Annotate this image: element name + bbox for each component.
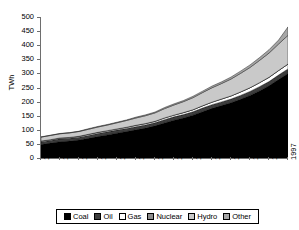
stacked-area-chart: TWh 500450400350300250200150100500 19711…: [0, 0, 299, 230]
x-tick-mark: [287, 157, 288, 160]
x-tick-label: 1993: [252, 143, 260, 160]
x-tick-label: 1991: [233, 143, 241, 160]
y-tick-label: 200: [10, 98, 34, 105]
legend-item-nuclear[interactable]: Nuclear: [147, 212, 182, 221]
x-tick-label: 1989: [214, 143, 222, 160]
x-tick-label: 1971: [43, 143, 51, 160]
x-tick-mark: [230, 157, 231, 160]
x-tick-mark: [78, 157, 79, 160]
x-tick-mark: [116, 157, 117, 160]
y-tick-label: 150: [10, 112, 34, 119]
chart-legend: CoalOilGasNuclearHydroOther: [56, 209, 259, 224]
y-tick-label: 450: [10, 27, 34, 34]
x-tick-mark: [173, 157, 174, 160]
legend-item-oil[interactable]: Oil: [94, 212, 112, 221]
legend-label: Gas: [128, 212, 142, 221]
legend-swatch-icon: [223, 213, 230, 220]
legend-label: Coal: [73, 212, 88, 221]
x-tick-label: 1981: [138, 143, 146, 160]
x-axis-tick-labels: 1971197319751977197919811983198519871989…: [40, 160, 287, 205]
legend-swatch-icon: [119, 213, 126, 220]
x-tick-mark: [40, 157, 41, 160]
legend-swatch-icon: [64, 213, 71, 220]
y-tick-label: 250: [10, 84, 34, 91]
x-tick-label: 1983: [157, 143, 165, 160]
x-tick-label: 1995: [271, 143, 279, 160]
y-tick-label: 50: [10, 140, 34, 147]
legend-swatch-icon: [188, 213, 195, 220]
x-tick-mark: [59, 157, 60, 160]
y-tick-label: 500: [10, 13, 34, 20]
x-tick-label: 1973: [62, 143, 70, 160]
area-series-group: [41, 17, 288, 158]
y-tick-label: 300: [10, 69, 34, 76]
y-axis-tick-labels: 500450400350300250200150100500: [8, 0, 34, 230]
x-tick-label: 1985: [176, 143, 184, 160]
legend-swatch-icon: [94, 213, 101, 220]
plot-area: [40, 17, 288, 159]
x-tick-mark: [192, 157, 193, 160]
legend-item-coal[interactable]: Coal: [64, 212, 88, 221]
legend-swatch-icon: [147, 213, 154, 220]
y-tick-label: 0: [10, 154, 34, 161]
x-tick-label: 1975: [81, 143, 89, 160]
legend-label: Other: [232, 212, 251, 221]
y-tick-label: 400: [10, 41, 34, 48]
x-tick-mark: [97, 157, 98, 160]
x-tick-label: 1987: [195, 143, 203, 160]
x-tick-mark: [249, 157, 250, 160]
legend-item-other[interactable]: Other: [223, 212, 251, 221]
legend-item-gas[interactable]: Gas: [119, 212, 142, 221]
y-tick-label: 100: [10, 126, 34, 133]
x-tick-mark: [154, 157, 155, 160]
legend-label: Nuclear: [156, 212, 182, 221]
x-tick-mark: [268, 157, 269, 160]
legend-label: Hydro: [197, 212, 217, 221]
x-tick-label: 1997: [290, 143, 298, 160]
legend-label: Oil: [103, 212, 112, 221]
x-tick-label: 1977: [100, 143, 108, 160]
x-tick-mark: [135, 157, 136, 160]
x-tick-label: 1979: [119, 143, 127, 160]
x-tick-mark: [211, 157, 212, 160]
legend-item-hydro[interactable]: Hydro: [188, 212, 217, 221]
y-tick-label: 350: [10, 55, 34, 62]
